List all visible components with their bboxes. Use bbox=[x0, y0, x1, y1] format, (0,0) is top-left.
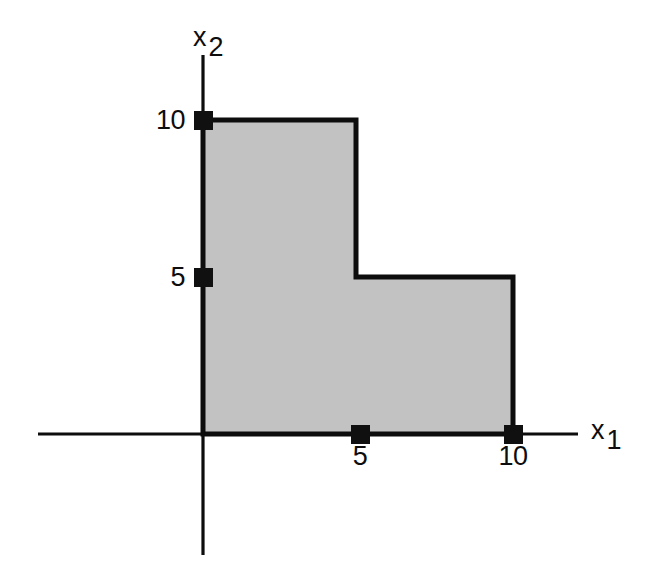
vertex-marker-0-10 bbox=[194, 111, 213, 130]
y-axis-label-subscript: 2 bbox=[209, 32, 224, 62]
y-tick-label-5: 5 bbox=[125, 264, 185, 291]
figure-canvas: 10 5 5 10 x2 x1 bbox=[0, 0, 650, 586]
x-axis-label-subscript: 1 bbox=[607, 425, 622, 455]
x-axis-label: x1 bbox=[591, 417, 620, 444]
x-tick-label-5: 5 bbox=[330, 443, 390, 470]
x-axis-label-base: x bbox=[591, 415, 605, 445]
vertex-marker-0-5 bbox=[194, 268, 213, 287]
plot-area bbox=[0, 0, 650, 586]
shaded-feasible-region bbox=[203, 120, 513, 434]
x-tick-label-10: 10 bbox=[483, 443, 543, 470]
y-axis-label-base: x bbox=[193, 22, 207, 52]
y-axis-label: x2 bbox=[193, 24, 222, 51]
y-tick-label-10: 10 bbox=[125, 107, 185, 134]
